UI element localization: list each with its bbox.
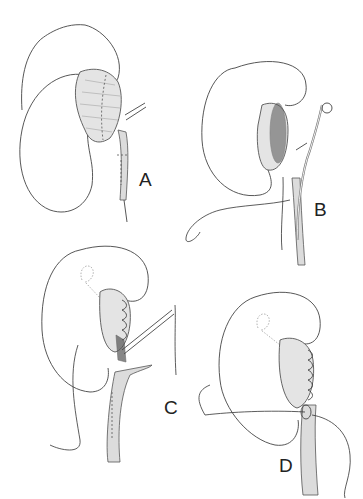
illustration-canvas bbox=[0, 0, 363, 499]
panel-label-c: C bbox=[164, 398, 178, 417]
panel-label-b: B bbox=[314, 200, 327, 219]
panel-c-drawing bbox=[42, 246, 176, 462]
pyeloplasty-figure: A B C D bbox=[0, 0, 363, 499]
panel-b-drawing bbox=[186, 62, 332, 265]
panel-label-a: A bbox=[139, 170, 152, 189]
panel-d-drawing bbox=[199, 292, 350, 498]
panel-a-drawing bbox=[20, 25, 146, 222]
panel-label-d: D bbox=[279, 456, 293, 475]
